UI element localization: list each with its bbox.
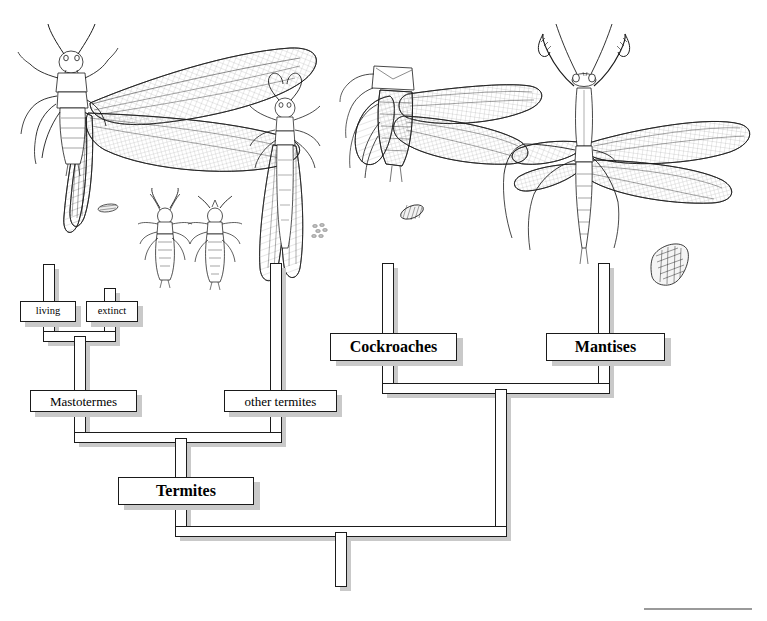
taxon-box-mantises[interactable]: Mantises	[546, 333, 665, 361]
taxon-label-mastotermes: Mastotermes	[50, 395, 117, 408]
taxon-box-cockroaches[interactable]: Cockroaches	[330, 333, 457, 361]
taxon-label-termites: Termites	[156, 483, 216, 499]
mastotermes-egg	[98, 203, 119, 213]
taxon-label-other-termites: other termites	[245, 395, 317, 408]
taxon-label-cockroaches: Cockroaches	[350, 339, 438, 355]
figure-canvas: living extinct Mastotermes other termite…	[0, 0, 767, 621]
taxon-box-living[interactable]: living	[20, 301, 76, 322]
taxon-label-living: living	[36, 306, 61, 317]
scale-bar	[644, 608, 752, 610]
termite-alate-folded	[250, 73, 320, 281]
taxon-box-extinct[interactable]: extinct	[86, 301, 138, 322]
mantis-ootheca	[647, 242, 693, 288]
mantis-adult	[503, 24, 749, 264]
taxon-box-termites[interactable]: Termites	[118, 477, 254, 505]
termite-soldier	[138, 188, 192, 288]
cockroach-ootheca	[399, 202, 426, 222]
taxon-box-mastotermes[interactable]: Mastotermes	[30, 390, 137, 412]
cockroach-adult	[340, 66, 542, 182]
termite-worker	[188, 196, 242, 290]
taxon-label-mantises: Mantises	[575, 339, 636, 355]
taxon-box-other-termites[interactable]: other termites	[224, 390, 337, 412]
termite-egg-cluster	[312, 223, 328, 237]
taxon-label-extinct: extinct	[98, 306, 127, 317]
